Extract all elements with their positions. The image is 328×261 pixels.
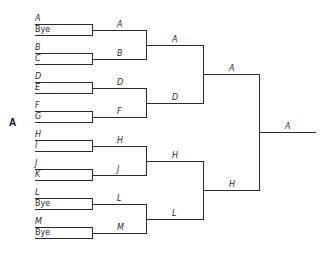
winner-line	[92, 233, 146, 234]
entrant-line-top	[35, 82, 92, 83]
winner-label: B	[117, 50, 123, 58]
entrant-label: J	[35, 160, 37, 168]
figure-label: A	[9, 117, 16, 128]
entrant-label: M	[35, 218, 42, 226]
entrant-label: Bye	[35, 26, 50, 34]
winner-line	[146, 45, 203, 46]
winner-line	[146, 219, 203, 220]
winner-line	[92, 117, 146, 118]
entrant-label: B	[35, 44, 41, 52]
winner-line	[203, 190, 259, 191]
winner-line	[92, 175, 146, 176]
winner-label: D	[172, 94, 178, 102]
entrant-line-bottom	[35, 151, 92, 152]
entrant-label: D	[35, 73, 41, 81]
winner-line	[92, 146, 146, 147]
entrant-label: A	[35, 15, 40, 23]
entrant-line-top	[35, 53, 92, 54]
entrant-label: C	[35, 55, 41, 63]
winner-line	[92, 88, 146, 89]
entrant-line-bottom	[35, 35, 92, 36]
entrant-label: L	[35, 189, 39, 197]
entrant-line-bottom	[35, 180, 92, 181]
entrant-line-bottom	[35, 238, 92, 239]
entrant-line-bottom	[35, 93, 92, 94]
winner-line	[203, 74, 259, 75]
entrant-line-top	[35, 140, 92, 141]
winner-label: D	[117, 79, 123, 87]
champion-label: A	[285, 123, 290, 131]
winner-label: M	[117, 224, 124, 232]
winner-label: A	[117, 21, 122, 29]
entrant-label: Bye	[35, 229, 50, 237]
entrant-label: I	[35, 142, 37, 150]
winner-line	[92, 204, 146, 205]
entrant-line-top	[35, 111, 92, 112]
entrant-label: K	[35, 171, 40, 179]
winner-label: F	[117, 108, 122, 116]
winner-label: A	[229, 65, 234, 73]
entrant-label: H	[35, 131, 41, 139]
tournament-bracket-diagram: AByeBCDEFGHIJKLByeMByeABDFHJLMADHLAHA	[0, 0, 328, 261]
winner-line	[92, 59, 146, 60]
winner-line	[92, 30, 146, 31]
entrant-line-top	[35, 169, 92, 170]
winner-label: H	[117, 137, 123, 145]
champion-line	[259, 132, 316, 133]
entrant-line-bottom	[35, 64, 92, 65]
entrant-label: G	[35, 113, 41, 121]
entrant-label: E	[35, 84, 40, 92]
entrant-label: Bye	[35, 200, 50, 208]
winner-label: H	[172, 152, 178, 160]
winner-line	[146, 161, 203, 162]
winner-line	[146, 103, 203, 104]
entrant-line-bottom	[35, 122, 92, 123]
winner-label: J	[117, 166, 119, 174]
winner-label: H	[229, 181, 235, 189]
entrant-line-bottom	[35, 209, 92, 210]
winner-label: L	[172, 210, 176, 218]
entrant-label: F	[35, 102, 40, 110]
winner-label: L	[117, 195, 121, 203]
winner-label: A	[172, 36, 177, 44]
